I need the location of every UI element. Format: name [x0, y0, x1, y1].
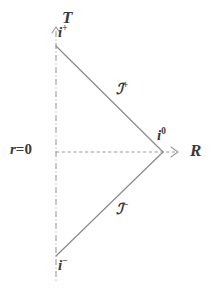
diagram-canvas [0, 0, 213, 289]
future-timelike-infinity-label: i+ [58, 25, 67, 40]
i-minus-sup: − [62, 256, 67, 266]
past-null-infinity-line [56, 152, 163, 256]
scri-minus-base: ℐ [116, 200, 123, 218]
past-null-infinity-label: ℐ− [116, 202, 128, 217]
origin-worldline-label: r=0 [10, 142, 32, 157]
spatial-infinity-label: i0 [157, 128, 166, 143]
future-null-infinity-label: ℐ+ [116, 82, 128, 97]
i-zero-sup: 0 [161, 126, 166, 136]
scri-plus-sup: + [123, 80, 128, 90]
zero-value: 0 [24, 141, 32, 157]
scri-plus-base: ℐ [116, 80, 123, 98]
future-null-infinity-line [56, 46, 163, 152]
past-timelike-infinity-label: i− [58, 258, 67, 273]
radial-axis-label: R [190, 142, 201, 159]
i-plus-sup: + [62, 23, 67, 33]
penrose-diagram: T i+ r=0 i0 R ℐ+ ℐ− i− [0, 0, 213, 289]
scri-minus-sup: − [123, 200, 128, 210]
